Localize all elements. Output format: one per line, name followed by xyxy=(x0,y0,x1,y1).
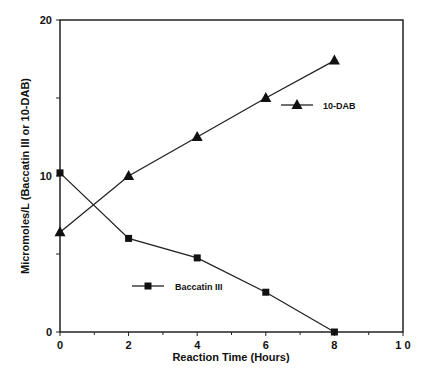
x-axis-title: Reaction Time (Hours) xyxy=(172,351,289,363)
square-marker-icon xyxy=(262,289,269,296)
y-tick-label: 20 xyxy=(40,14,52,26)
triangle-marker-icon xyxy=(260,92,271,102)
y-tick-label: 0 xyxy=(46,326,52,338)
x-tick-label: 8 xyxy=(331,339,337,351)
x-tick-label: 6 xyxy=(263,339,269,351)
legend-item: Baccatin III xyxy=(132,282,223,292)
legend-label: 10-DAB xyxy=(323,101,356,111)
square-marker-icon xyxy=(331,329,338,336)
x-tick-label: 2 xyxy=(126,339,132,351)
plot-frame xyxy=(60,20,403,332)
chart: 024681 0 01020 10-DABBaccatin III Reacti… xyxy=(0,0,426,382)
square-marker-icon xyxy=(194,254,201,261)
legend: 10-DABBaccatin III xyxy=(132,99,356,292)
legend-item: 10-DAB xyxy=(281,99,356,111)
triangle-marker-icon xyxy=(55,226,66,236)
x-axis-ticks: 024681 0 xyxy=(57,332,411,351)
legend-label: Baccatin III xyxy=(175,282,223,292)
triangle-marker-icon xyxy=(123,170,134,180)
series-baccatin-iii xyxy=(57,169,338,335)
x-tick-label: 0 xyxy=(57,339,63,351)
y-axis-title: Micromoles/L (Baccatin III or 10-DAB) xyxy=(19,78,31,274)
series-layer xyxy=(55,55,340,336)
x-tick-label: 4 xyxy=(194,339,201,351)
triangle-marker-icon xyxy=(329,55,340,65)
square-marker-icon xyxy=(57,169,64,176)
triangle-marker-icon xyxy=(292,99,303,109)
x-tick-label: 1 0 xyxy=(395,339,410,351)
square-marker-icon xyxy=(125,235,132,242)
y-tick-label: 10 xyxy=(40,170,52,182)
triangle-marker-icon xyxy=(192,131,203,141)
square-marker-icon xyxy=(145,283,152,290)
